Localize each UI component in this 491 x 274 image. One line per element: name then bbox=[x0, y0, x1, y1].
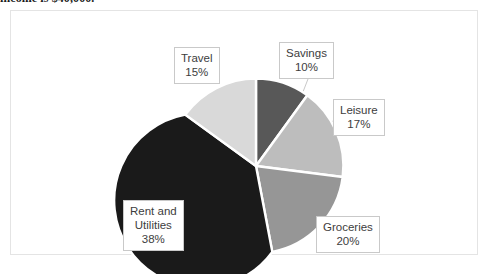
pie-label-rent-and-utilities[interactable]: Rent and Utilities 38% bbox=[123, 200, 184, 251]
pie-label-groceries-name: Groceries bbox=[323, 220, 373, 234]
pie-label-groceries-value: 20% bbox=[323, 234, 373, 248]
pie-label-rent-value: 38% bbox=[130, 232, 177, 246]
document-cutoff-text: income is $40,000. bbox=[0, 0, 94, 6]
pie-label-groceries[interactable]: Groceries 20% bbox=[316, 216, 380, 253]
pie-label-savings-value: 10% bbox=[286, 60, 327, 74]
pie-label-savings-name: Savings bbox=[286, 46, 327, 60]
pie-label-travel-value: 15% bbox=[181, 65, 213, 79]
pie-label-rent-name2: Utilities bbox=[130, 218, 177, 232]
pie-label-savings[interactable]: Savings 10% bbox=[279, 42, 334, 79]
chart-frame[interactable]: Travel 15% Savings 10% Leisure 17% Groce… bbox=[10, 10, 478, 255]
pie-label-travel-name: Travel bbox=[181, 51, 213, 65]
pie-label-leisure-value: 17% bbox=[340, 117, 378, 131]
pie-label-travel[interactable]: Travel 15% bbox=[174, 47, 220, 84]
pie-label-rent-name1: Rent and bbox=[130, 204, 177, 218]
pie-label-leisure[interactable]: Leisure 17% bbox=[333, 99, 385, 136]
pie-label-leisure-name: Leisure bbox=[340, 103, 378, 117]
